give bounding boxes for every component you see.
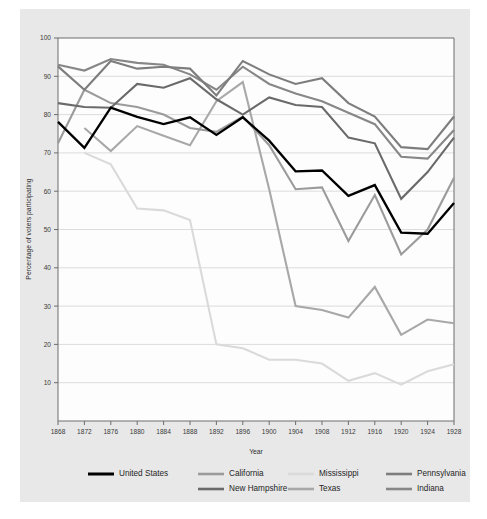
- y-tick-label: 60: [44, 188, 52, 195]
- y-tick-label: 50: [44, 226, 52, 233]
- x-axis-title: Year: [249, 448, 263, 455]
- x-tick-label: 1904: [288, 428, 303, 435]
- y-tick-label: 40: [44, 264, 52, 271]
- y-tick-label: 100: [40, 34, 51, 41]
- x-tick-label: 1924: [420, 428, 435, 435]
- legend-label-california: California: [229, 469, 264, 478]
- x-tick-label: 1896: [235, 428, 250, 435]
- y-tick-label: 30: [44, 303, 52, 310]
- x-tick-label: 1920: [394, 428, 409, 435]
- x-tick-label: 1928: [447, 428, 462, 435]
- legend-label-pennsylvania: Pennsylvania: [417, 469, 466, 478]
- voter-participation-line-chart: 102030405060708090100 186818721876188018…: [20, 9, 470, 502]
- y-axis: 102030405060708090100: [40, 34, 58, 421]
- x-tick-label: 1868: [51, 428, 66, 435]
- x-tick-label: 1892: [209, 428, 224, 435]
- x-tick-label: 1900: [262, 428, 277, 435]
- y-tick-label: 90: [44, 73, 52, 80]
- x-tick-label: 1880: [130, 428, 145, 435]
- y-tick-label: 80: [44, 111, 52, 118]
- legend-label-united-states: United States: [119, 469, 168, 478]
- y-tick-label: 20: [44, 341, 52, 348]
- y-tick-label: 10: [44, 379, 52, 386]
- y-axis-title: Percentage of voters participating: [25, 178, 33, 279]
- legend-label-indiana: Indiana: [417, 484, 444, 493]
- legend-label-new-hampshire: New Hampshire: [229, 484, 288, 493]
- legend-label-mississippi: Mississippi: [319, 469, 359, 478]
- x-tick-label: 1888: [183, 428, 198, 435]
- y-tick-label: 70: [44, 149, 52, 156]
- x-tick-label: 1876: [103, 428, 118, 435]
- x-tick-label: 1884: [156, 428, 171, 435]
- legend-label-texas: Texas: [319, 484, 340, 493]
- figure-card: 102030405060708090100 186818721876188018…: [20, 9, 470, 502]
- x-tick-label: 1916: [367, 428, 382, 435]
- x-tick-label: 1912: [341, 428, 356, 435]
- chart-legend: United StatesCaliforniaNew HampshireMiss…: [88, 469, 466, 493]
- x-tick-label: 1872: [77, 428, 92, 435]
- x-tick-label: 1908: [315, 428, 330, 435]
